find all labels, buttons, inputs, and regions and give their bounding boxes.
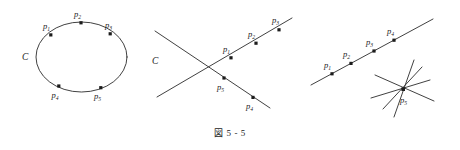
point-label-p2: p2 xyxy=(342,49,350,60)
figure-crossing-lines-group: C p1 p2 p3 p5 p4 xyxy=(152,15,292,112)
point-label-p4: p4 xyxy=(51,90,59,101)
point-label-p3: p3 xyxy=(271,15,279,26)
point-marker xyxy=(349,62,352,65)
ellipse-curve xyxy=(36,22,127,92)
point-marker xyxy=(99,86,102,89)
point-label-p2: p2 xyxy=(73,9,81,20)
point-marker xyxy=(109,32,112,35)
point-label-p1: p1 xyxy=(42,21,50,32)
point-label-p5: p5 xyxy=(399,95,407,106)
figure-line-and-pencil-group: p1 p2 p3 p4 p5 xyxy=(311,19,434,117)
point-marker xyxy=(277,28,280,31)
point-marker xyxy=(79,21,82,24)
point-marker xyxy=(401,87,405,91)
point-marker xyxy=(222,76,225,79)
point-label-p3: p3 xyxy=(365,37,373,48)
point-label-p1: p1 xyxy=(222,44,230,55)
ellipse-curve-label: C xyxy=(22,52,29,62)
crossing-lines-curve-label: C xyxy=(152,56,159,66)
point-label-p5: p5 xyxy=(93,91,101,102)
ascending-line xyxy=(157,18,292,97)
point-marker xyxy=(49,33,52,36)
point-label-p1: p1 xyxy=(323,60,331,71)
figure-ellipse-group: C p1 p2 p3 p4 p5 xyxy=(22,9,127,102)
point-marker xyxy=(372,49,375,52)
figure-board: C p1 p2 p3 p4 p5 C p1 xyxy=(0,0,460,150)
point-label-p5: p5 xyxy=(216,82,224,93)
figure-caption: 図 5 - 5 xyxy=(0,126,460,139)
point-label-p2: p2 xyxy=(247,29,255,40)
point-label-p3: p3 xyxy=(104,20,112,31)
point-label-p4: p4 xyxy=(386,26,394,37)
point-marker xyxy=(57,84,60,87)
point-label-p4: p4 xyxy=(245,101,253,112)
point-marker xyxy=(392,39,395,42)
point-marker xyxy=(254,42,257,45)
point-marker xyxy=(251,96,254,99)
point-marker xyxy=(229,56,232,59)
point-marker xyxy=(330,72,333,75)
